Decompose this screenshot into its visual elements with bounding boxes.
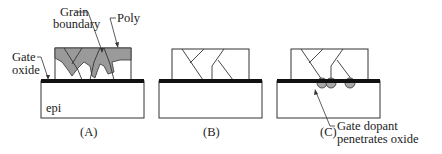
poly-block-b bbox=[172, 49, 249, 80]
panel-b: (B) bbox=[159, 49, 262, 139]
caption-b: (B) bbox=[203, 125, 220, 139]
caption-c: (C) bbox=[320, 125, 337, 139]
gate-oxide-label-line2: oxide bbox=[12, 63, 40, 77]
epi-substrate-b bbox=[159, 81, 262, 118]
gate-oxide-a bbox=[41, 79, 144, 83]
gate-oxide-c bbox=[277, 79, 380, 83]
poly-arrowhead bbox=[115, 42, 119, 48]
dopant-label-line2: penetrates oxide bbox=[337, 132, 419, 146]
epi-label: epi bbox=[46, 101, 62, 115]
caption-a: (A) bbox=[80, 125, 97, 139]
panel-a: Grain boundary Poly Gate oxide epi (A) bbox=[12, 5, 144, 139]
gate-oxide-label-line1: Gate bbox=[12, 50, 36, 64]
diagram-stage: Grain boundary Poly Gate oxide epi (A) (… bbox=[0, 0, 442, 154]
poly-label: Poly bbox=[117, 11, 141, 25]
gate-oxide-b bbox=[159, 79, 262, 83]
poly-block-c bbox=[291, 49, 368, 80]
dopant-label-line1: Gate dopant bbox=[337, 119, 398, 133]
panel-c: Gate dopant penetrates oxide (C) bbox=[277, 49, 419, 146]
poly-leader bbox=[110, 18, 117, 44]
